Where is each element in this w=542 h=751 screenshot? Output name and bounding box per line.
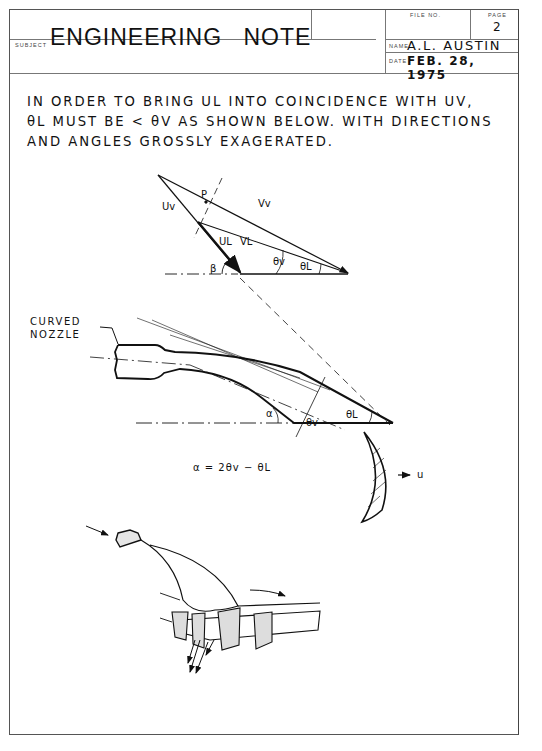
callout-nozzle: NOZZLE <box>30 329 81 340</box>
label-p: P <box>201 189 207 200</box>
label-u: u <box>417 469 423 480</box>
sketch-figures: P Uv Vv UL VL β θv θL CURVED NOZ <box>0 0 542 751</box>
label-theta-v: θv <box>273 256 285 267</box>
callout-curved: CURVED <box>30 316 81 327</box>
velocity-triangle-figure <box>158 175 390 425</box>
curved-nozzle-figure <box>90 318 410 522</box>
label-beta: β <box>210 263 216 274</box>
label-ul: UL <box>219 236 232 247</box>
label-vl: VL <box>240 236 253 247</box>
label-theta-v-2: θv <box>306 417 318 428</box>
label-alpha: α <box>266 408 273 419</box>
label-theta-l-2: θL <box>346 409 358 420</box>
label-uv: Uv <box>162 201 175 212</box>
label-vv: Vv <box>258 198 271 209</box>
rotor-perspective-figure <box>86 526 320 673</box>
equation: α = 2θv − θL <box>193 462 271 473</box>
label-theta-l: θL <box>300 261 312 272</box>
